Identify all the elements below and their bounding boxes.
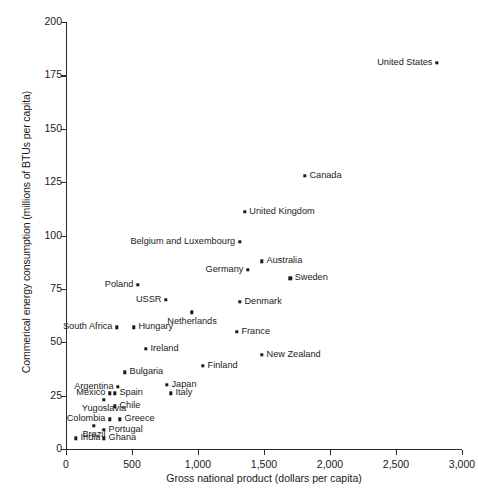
data-point bbox=[108, 392, 111, 395]
data-point-label: Netherlands bbox=[167, 317, 217, 326]
data-point-label: Colombia bbox=[67, 415, 106, 424]
data-point-label: Canada bbox=[309, 171, 341, 180]
y-tick-label: 50 bbox=[32, 335, 62, 347]
y-tick-label: 150 bbox=[32, 122, 62, 134]
data-point-label: Ireland bbox=[150, 344, 178, 353]
y-tick-label: 25 bbox=[32, 389, 62, 401]
data-point-label: Hungary bbox=[138, 323, 173, 332]
x-tick-label: 2,000 bbox=[302, 458, 358, 470]
data-point bbox=[201, 364, 204, 367]
y-tick-label: 200 bbox=[32, 15, 62, 27]
data-point bbox=[238, 300, 241, 303]
data-point bbox=[102, 437, 105, 440]
data-point-label: Germany bbox=[206, 265, 244, 274]
data-point-label: South Africa bbox=[63, 323, 113, 332]
x-tick-mark bbox=[396, 450, 397, 455]
data-point bbox=[113, 405, 116, 408]
y-tick-label: 175 bbox=[32, 68, 62, 80]
data-point-label: India bbox=[81, 434, 101, 443]
y-tick-label: 100 bbox=[32, 229, 62, 241]
x-tick-label: 3,000 bbox=[434, 458, 478, 470]
data-point-label: Greece bbox=[124, 415, 154, 424]
plot-area: 0255075100125150175200 05001,0001,5002,0… bbox=[66, 22, 462, 450]
x-tick-label: 500 bbox=[104, 458, 160, 470]
data-point bbox=[303, 174, 306, 177]
data-point-label: Denmark bbox=[244, 297, 281, 306]
data-point-label: Ghana bbox=[109, 434, 137, 443]
data-point bbox=[243, 210, 246, 213]
data-point bbox=[238, 240, 241, 243]
y-tick-label: 75 bbox=[32, 282, 62, 294]
data-point bbox=[118, 417, 121, 420]
data-point bbox=[144, 347, 147, 350]
x-tick-mark bbox=[264, 450, 265, 455]
data-point bbox=[169, 392, 172, 395]
data-point bbox=[190, 311, 193, 314]
data-point-label: Belgium and Luxembourg bbox=[130, 237, 235, 246]
data-point bbox=[260, 353, 263, 356]
data-point-label: Bulgaria bbox=[130, 368, 164, 377]
y-axis-spine bbox=[66, 22, 67, 450]
data-point bbox=[102, 398, 105, 401]
data-point bbox=[164, 298, 167, 301]
data-point-label: Australia bbox=[267, 257, 303, 266]
x-tick-mark bbox=[330, 450, 331, 455]
data-point-label: Chile bbox=[119, 402, 140, 411]
data-point bbox=[102, 428, 105, 431]
x-tick-label: 2,500 bbox=[368, 458, 424, 470]
data-point-label: Spain bbox=[119, 389, 143, 398]
y-tick-label: 0 bbox=[32, 442, 62, 454]
data-point bbox=[123, 370, 126, 373]
x-tick-mark bbox=[132, 450, 133, 455]
data-point bbox=[74, 437, 77, 440]
data-point-label: USSR bbox=[136, 295, 162, 304]
data-point bbox=[113, 392, 116, 395]
data-point bbox=[108, 417, 111, 420]
x-tick-mark bbox=[462, 450, 463, 455]
data-point-label: United Kingdom bbox=[249, 207, 314, 216]
x-tick-mark bbox=[66, 450, 67, 455]
data-point bbox=[235, 330, 238, 333]
data-point bbox=[246, 268, 249, 271]
scatter-plot-figure: Commerical energy consumption (millions … bbox=[0, 0, 478, 494]
x-tick-label: 1,000 bbox=[170, 458, 226, 470]
data-point-label: Sweden bbox=[295, 274, 328, 283]
data-point-label: Poland bbox=[105, 280, 134, 289]
data-point-label: France bbox=[241, 327, 270, 336]
data-point bbox=[288, 276, 291, 279]
data-point-label: United States bbox=[377, 58, 432, 67]
data-point bbox=[92, 424, 95, 427]
data-point bbox=[136, 283, 139, 286]
data-point bbox=[260, 259, 263, 262]
data-point bbox=[165, 383, 168, 386]
x-tick-label: 0 bbox=[38, 458, 94, 470]
data-point-label: Italy bbox=[175, 389, 192, 398]
data-point bbox=[435, 61, 438, 64]
x-tick-mark bbox=[198, 450, 199, 455]
data-point bbox=[115, 326, 118, 329]
x-axis-label: Gross national product (dollars per capi… bbox=[66, 472, 462, 484]
data-point-label: Mexico bbox=[76, 389, 105, 398]
x-tick-label: 1,500 bbox=[236, 458, 292, 470]
data-point bbox=[132, 326, 135, 329]
y-tick-label: 125 bbox=[32, 175, 62, 187]
data-point-label: New Zealand bbox=[267, 350, 321, 359]
data-point-label: Finland bbox=[208, 361, 238, 370]
